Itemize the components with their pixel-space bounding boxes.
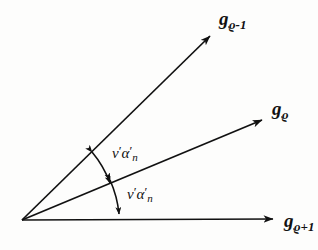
diagram-canvas <box>0 0 318 250</box>
vector-line-g-rho-plus-1 <box>22 219 273 220</box>
angle-arc-upper <box>92 152 110 183</box>
vector-label-base: g <box>272 98 282 119</box>
vector-label-g-rho-minus-1: gϱ-1 <box>219 9 246 31</box>
vector-label-subscript: ϱ+1 <box>294 219 315 234</box>
vector-label-base: g <box>219 8 229 29</box>
angle-subscript-n: n <box>147 192 153 204</box>
vector-label-subscript: ϱ <box>282 107 289 122</box>
angle-arc-lower <box>110 180 119 214</box>
vector-label-base: g <box>284 210 294 231</box>
vector-label-g-rho: gϱ <box>272 99 289 121</box>
vector-label-subscript: ϱ-1 <box>229 17 247 32</box>
vector-line-g-rho <box>22 120 262 220</box>
angle-subscript-n: n <box>132 151 138 163</box>
angle-label-upper: ν′α′n <box>112 144 138 163</box>
angle-label-lower: ν′α′n <box>127 185 153 204</box>
angle-nu: ν <box>127 186 134 202</box>
angle-nu: ν <box>112 145 119 161</box>
vector-line-g-rho-minus-1 <box>22 36 210 220</box>
vector-label-g-rho-plus-1: gϱ+1 <box>284 211 315 233</box>
vector-angle-diagram: gϱ-1 gϱ gϱ+1 ν′α′n ν′α′n <box>0 0 318 250</box>
